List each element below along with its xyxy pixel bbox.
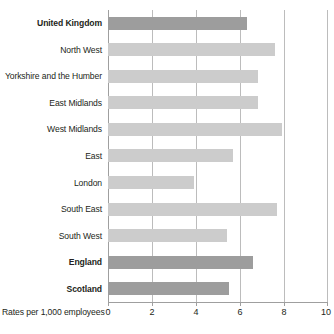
bar <box>108 123 282 136</box>
bar-chart: United KingdomNorth WestYorkshire and th… <box>0 0 334 334</box>
category-label: United Kingdom <box>0 18 102 28</box>
category-label: London <box>0 178 102 188</box>
bar-row: East <box>0 143 334 170</box>
category-label: Yorkshire and the Humber <box>0 71 102 81</box>
bar <box>108 256 253 269</box>
category-label: North West <box>0 45 102 55</box>
category-label: East <box>0 151 102 161</box>
xtick-label-8: 8 <box>274 306 294 318</box>
category-label: England <box>0 257 102 267</box>
bar-row: South East <box>0 196 334 223</box>
category-label: East Midlands <box>0 98 102 108</box>
xtick-label-10: 10 <box>316 306 334 318</box>
category-label: South East <box>0 204 102 214</box>
bar-row: United Kingdom <box>0 10 334 37</box>
bar-row: North West <box>0 37 334 64</box>
bar <box>108 282 229 295</box>
bar-row: West Midlands <box>0 116 334 143</box>
bar-rows: United KingdomNorth WestYorkshire and th… <box>0 10 334 302</box>
xtick-label-6: 6 <box>230 306 250 318</box>
category-label: West Midlands <box>0 124 102 134</box>
bar <box>108 203 277 216</box>
xtick-label-2: 2 <box>142 306 162 318</box>
x-axis-line <box>108 302 328 303</box>
bar <box>108 43 275 56</box>
bar-row: Yorkshire and the Humber <box>0 63 334 90</box>
bar <box>108 70 258 83</box>
bar <box>108 176 194 189</box>
category-label: Scotland <box>0 284 102 294</box>
xtick-label-4: 4 <box>186 306 206 318</box>
bar <box>108 229 227 242</box>
category-label: South West <box>0 231 102 241</box>
bar-row: Scotland <box>0 275 334 302</box>
bar-row: London <box>0 169 334 196</box>
bar <box>108 149 233 162</box>
bar <box>108 96 258 109</box>
bar-row: England <box>0 249 334 276</box>
x-axis-title: Rates per 1,000 employees <box>2 306 105 318</box>
bar <box>108 17 247 30</box>
bar-row: South West <box>0 222 334 249</box>
bar-row: East Midlands <box>0 90 334 117</box>
